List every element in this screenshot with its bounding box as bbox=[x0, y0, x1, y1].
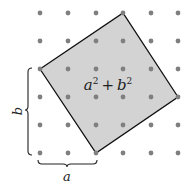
lattice-dot bbox=[66, 95, 71, 100]
side-a-label: a bbox=[63, 169, 71, 184]
lattice-dot bbox=[38, 67, 43, 72]
lattice-dot bbox=[66, 123, 71, 128]
brace-a bbox=[38, 160, 97, 167]
lattice-dot bbox=[149, 67, 154, 72]
lattice-dot bbox=[38, 123, 43, 128]
lattice-dot bbox=[176, 11, 181, 16]
lattice-dot bbox=[121, 95, 126, 100]
lattice-dot bbox=[121, 39, 126, 44]
lattice-dot bbox=[94, 67, 99, 72]
lattice-dot bbox=[94, 95, 99, 100]
lattice-dot bbox=[38, 151, 43, 156]
lattice-dot bbox=[176, 39, 181, 44]
lattice-dot bbox=[176, 95, 181, 100]
lattice-dot bbox=[121, 151, 126, 156]
lattice-dot bbox=[121, 11, 126, 16]
lattice-dot bbox=[94, 11, 99, 16]
lattice-dot bbox=[94, 39, 99, 44]
lattice-dot bbox=[94, 123, 99, 128]
lattice-dot bbox=[66, 67, 71, 72]
area-label: a2+b2 bbox=[84, 76, 133, 94]
lattice-dot bbox=[66, 39, 71, 44]
lattice-dot bbox=[149, 123, 154, 128]
lattice-dot bbox=[66, 151, 71, 156]
pythagoras-lattice-diagram: a2+b2 b a bbox=[0, 0, 193, 189]
lattice-dot bbox=[149, 39, 154, 44]
lattice-dot bbox=[176, 123, 181, 128]
lattice-dot bbox=[38, 95, 43, 100]
side-b-label: b bbox=[10, 107, 25, 115]
lattice-dot bbox=[94, 151, 99, 156]
lattice-dot bbox=[38, 11, 43, 16]
lattice-dot bbox=[38, 39, 43, 44]
lattice-dot bbox=[66, 11, 71, 16]
brace-b bbox=[25, 68, 32, 155]
lattice-dot bbox=[149, 11, 154, 16]
lattice-dot bbox=[121, 123, 126, 128]
lattice-dot bbox=[149, 151, 154, 156]
lattice-dot bbox=[176, 151, 181, 156]
lattice-dot bbox=[149, 95, 154, 100]
lattice-dot bbox=[176, 67, 181, 72]
lattice-dot bbox=[121, 67, 126, 72]
